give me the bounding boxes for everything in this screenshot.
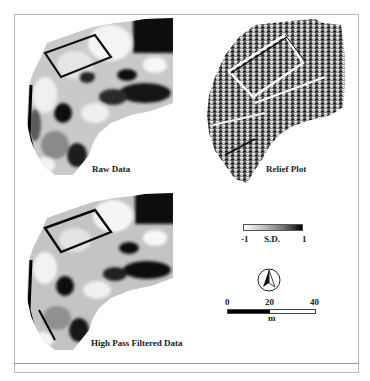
sd-color-scale <box>243 224 303 231</box>
legend-unit-label: S.D. <box>264 234 280 244</box>
scale-bar-black-segment <box>228 310 270 313</box>
scale-tick-0: 0 <box>225 297 230 307</box>
north-arrow-icon <box>257 268 281 292</box>
relief-plot-label: Relief Plot <box>266 164 306 174</box>
relief-plot-map <box>195 15 360 185</box>
scale-tick-40: 40 <box>310 297 319 307</box>
high-pass-filtered-label: High Pass Filtered Data <box>91 338 183 348</box>
scale-unit-label: m <box>268 313 276 323</box>
raw-data-map <box>15 15 175 180</box>
scale-tick-20: 20 <box>265 297 274 307</box>
high-pass-filtered-map <box>15 190 175 355</box>
raw-data-label: Raw Data <box>92 164 130 174</box>
frame-divider <box>14 363 359 364</box>
legend-min-label: -1 <box>241 234 249 244</box>
legend-max-label: 1 <box>302 234 307 244</box>
